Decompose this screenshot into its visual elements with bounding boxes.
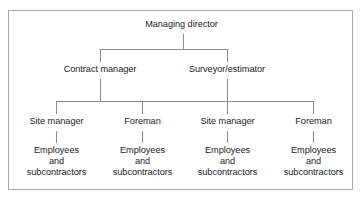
node-contract-manager: Contract manager bbox=[40, 64, 160, 75]
node-label-line3: subcontractors bbox=[13, 167, 100, 178]
node-employees-subcontractors-1: Employees and subcontractors bbox=[13, 145, 100, 179]
node-label-line1: Employees bbox=[270, 145, 357, 156]
node-managing-director: Managing director bbox=[9, 19, 354, 30]
connector-level2-drop-2 bbox=[227, 49, 228, 62]
connector-contract-manager-stem bbox=[100, 79, 101, 101]
node-label-line3: subcontractors bbox=[99, 167, 186, 178]
connector-level4-stub-3 bbox=[227, 131, 228, 143]
diagram-frame: Managing director Contract manager Surve… bbox=[8, 10, 353, 190]
node-label: Contract manager bbox=[64, 64, 137, 74]
node-label: Managing director bbox=[145, 19, 218, 29]
node-employees-subcontractors-3: Employees and subcontractors bbox=[184, 145, 271, 179]
node-surveyor-estimator: Surveyor/estimator bbox=[167, 64, 287, 75]
connector-level4-stub-1 bbox=[56, 131, 57, 143]
connector-level3-drop-3 bbox=[227, 101, 228, 114]
node-foreman-2: Foreman bbox=[271, 116, 356, 127]
connector-level3-drop-2 bbox=[142, 101, 143, 114]
node-employees-subcontractors-4: Employees and subcontractors bbox=[270, 145, 357, 179]
node-site-manager-2: Site manager bbox=[185, 116, 270, 127]
node-label: Foreman bbox=[124, 116, 160, 126]
connector-level4-stub-4 bbox=[313, 131, 314, 143]
node-label-line3: subcontractors bbox=[270, 167, 357, 178]
node-label-line1: Employees bbox=[184, 145, 271, 156]
connector-level3-drop-4 bbox=[313, 101, 314, 114]
node-label-line2: and bbox=[99, 156, 186, 167]
connector-level2-drop-1 bbox=[100, 49, 101, 62]
node-site-manager-1: Site manager bbox=[14, 116, 99, 127]
connector-surveyor-stem bbox=[227, 79, 228, 101]
node-label: Foreman bbox=[295, 116, 331, 126]
node-label: Site manager bbox=[29, 116, 83, 126]
node-label-line1: Employees bbox=[13, 145, 100, 156]
node-label: Surveyor/estimator bbox=[189, 64, 265, 74]
node-label-line1: Employees bbox=[99, 145, 186, 156]
connector-level2-bus bbox=[100, 49, 227, 50]
diagram-page: Managing director Contract manager Surve… bbox=[0, 0, 361, 209]
node-label-line2: and bbox=[270, 156, 357, 167]
node-employees-subcontractors-2: Employees and subcontractors bbox=[99, 145, 186, 179]
node-label: Site manager bbox=[200, 116, 254, 126]
connector-level4-stub-2 bbox=[142, 131, 143, 143]
node-label-line3: subcontractors bbox=[184, 167, 271, 178]
connector-level3-drop-1 bbox=[56, 101, 57, 114]
node-label-line2: and bbox=[13, 156, 100, 167]
node-label-line2: and bbox=[184, 156, 271, 167]
node-foreman-1: Foreman bbox=[100, 116, 185, 127]
connector-root-stem bbox=[183, 34, 184, 49]
connector-level3-bus bbox=[56, 101, 314, 102]
